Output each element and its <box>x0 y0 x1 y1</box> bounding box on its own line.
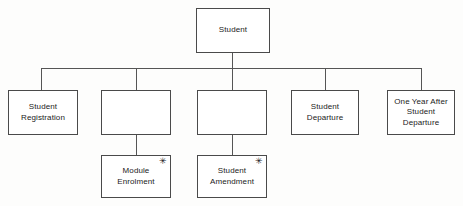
edge-drop-blank-node-1 <box>136 68 137 90</box>
edge-drop-one-year-after-student-departure <box>421 68 422 90</box>
node-student[interactable]: Student <box>196 8 270 53</box>
edge-drop-student-departure <box>325 68 326 90</box>
edge-bus-bar <box>41 68 421 69</box>
node-one-year-after-student-departure[interactable]: One Year After Student Departure <box>387 90 455 135</box>
node-student-departure[interactable]: Student Departure <box>291 90 359 135</box>
node-student-registration-label: Student Registration <box>18 102 68 123</box>
node-one-year-after-student-departure-label: One Year After Student Departure <box>391 97 450 129</box>
edge-connector-student-amendment <box>232 135 233 155</box>
node-module-enrolment-label: Module Enrolment <box>114 166 157 187</box>
node-module-enrolment[interactable]: ✳ Module Enrolment <box>101 155 171 198</box>
node-blank-node-2[interactable] <box>197 90 267 135</box>
node-student-label: Student <box>216 25 250 36</box>
edge-drop-blank-node-2 <box>232 68 233 90</box>
diagram-canvas: Student Student Registration Student Dep… <box>0 0 463 206</box>
edge-connector-module-enrolment <box>136 135 137 155</box>
asterisk-marker-icon: ✳ <box>159 158 167 164</box>
node-student-departure-label: Student Departure <box>304 102 346 123</box>
node-student-amendment[interactable]: ✳ Student Amendment <box>197 155 267 198</box>
edge-drop-student-registration <box>41 68 42 90</box>
edge-root-stem <box>232 53 233 68</box>
node-student-registration[interactable]: Student Registration <box>8 90 78 135</box>
node-blank-node-1[interactable] <box>101 90 171 135</box>
node-student-amendment-label: Student Amendment <box>207 166 257 187</box>
asterisk-marker-icon: ✳ <box>255 158 263 164</box>
